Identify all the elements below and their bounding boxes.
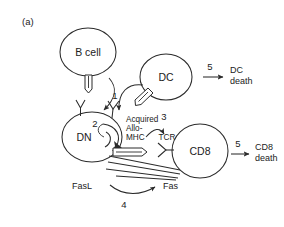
step-5-dc-number: 5 [207,61,212,72]
dc-death-line2: death [230,76,253,86]
dc-group: DC [135,54,192,106]
dc-death-outcome: 5 DC death [203,61,253,86]
b-cell-label: B cell [75,46,101,58]
b-cell-group: B cell [60,28,116,93]
fasl-label: FasL [72,181,92,191]
step-2-number: 2 [92,118,97,129]
figure-panel-a: (a) B cell DC DN [0,0,284,227]
fasl-fas-bridge [106,156,180,180]
fas-killing-arrow-icon [110,185,155,194]
panel-label: (a) [22,16,34,27]
mhc-molecule-icon-b-cell [85,75,92,93]
cd8-death-line2: death [255,153,278,163]
step-3-number: 3 [161,111,166,122]
step-5-cd8-number: 5 [235,138,240,149]
dc-label: DC [158,71,174,83]
acquired-allo-mhc-label: Acquired Allo- MHC [126,115,159,142]
dc-death-line1: DC [230,65,243,75]
cd8-death-line1: CD8 [255,142,273,152]
fas-label: Fas [163,181,179,191]
cd8-group: CD8 TCR [158,124,228,178]
cd8-label: CD8 [189,145,210,157]
step-1-number: 1 [112,90,117,101]
cd8-death-outcome: 5 CD8 death [231,138,278,163]
tcr-receptor-icon-cd8 [158,143,174,157]
mhc-label: MHC [126,133,145,142]
acquired-label: Acquired [126,115,159,124]
diagram-canvas: (a) B cell DC DN [0,0,284,227]
tcr-label: TCR [159,133,176,142]
step-4-number: 4 [121,199,126,210]
mhc-molecule-icon-dc [135,88,153,106]
acquired-mhc-icon-dn-right [113,148,147,156]
allo-label: Allo- [126,124,143,133]
dn-label: DN [76,131,91,143]
